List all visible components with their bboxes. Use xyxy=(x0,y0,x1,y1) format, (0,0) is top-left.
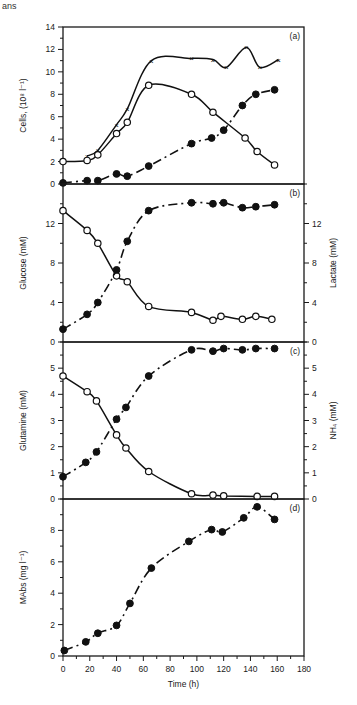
data-point-ammonium xyxy=(60,473,67,480)
data-point-total-cells: × xyxy=(276,56,281,65)
data-point-dead-cells xyxy=(94,177,101,184)
data-point-viable-cells xyxy=(210,109,216,115)
data-point-total-cells: × xyxy=(114,121,119,130)
data-point-lactate xyxy=(239,204,246,211)
data-point-dead-cells xyxy=(220,127,227,134)
data-point-viable-cells xyxy=(242,135,248,141)
multi-panel-figure: ans 02468101214Cells, (10⁸ l⁻¹)(a)××××××… xyxy=(0,0,357,705)
data-point-mabs xyxy=(219,529,226,536)
data-point-lactate xyxy=(145,207,152,214)
y-axis-title: MAbs (mg l⁻¹) xyxy=(18,551,28,605)
series-curve-mabs xyxy=(64,507,274,651)
data-point-glucose xyxy=(60,207,66,213)
data-point-glutamine xyxy=(220,493,226,499)
data-point-glutamine xyxy=(145,468,151,474)
y-right-tick-label: 0 xyxy=(312,337,317,347)
data-point-glutamine xyxy=(93,398,99,404)
data-point-total-cells: × xyxy=(125,105,130,114)
panel-tag: (a) xyxy=(290,31,301,41)
data-point-dead-cells xyxy=(84,177,91,184)
x-tick-label: 140 xyxy=(243,664,257,674)
y-axis-title: Cells, (10⁸ l⁻¹) xyxy=(18,78,28,133)
y-tick-label: 0 xyxy=(50,179,55,189)
y-tick-label: 14 xyxy=(46,22,56,32)
data-point-ammonium xyxy=(220,345,227,352)
panel-b: 0481204812Lactate (mM)Glucose (mM)(b) xyxy=(18,184,338,347)
y-tick-label: 12 xyxy=(46,44,56,54)
header-fragment: ans xyxy=(2,1,17,11)
panel-tag: (d) xyxy=(290,503,301,513)
y-right-tick-label: 5 xyxy=(312,363,317,373)
data-point-ammonium xyxy=(188,346,195,353)
x-tick-label: 0 xyxy=(61,664,66,674)
data-point-total-cells: × xyxy=(257,63,262,72)
data-point-lactate xyxy=(113,267,120,274)
data-point-glucose xyxy=(218,313,224,319)
data-point-total-cells: × xyxy=(149,57,154,66)
data-point-mabs xyxy=(208,526,215,533)
data-point-ammonium xyxy=(145,373,152,380)
y-right-tick-label: 12 xyxy=(312,219,322,229)
data-point-glutamine xyxy=(188,491,194,497)
series-curve-glutamine xyxy=(63,376,275,496)
data-point-lactate xyxy=(210,200,217,207)
y-tick-label: 5 xyxy=(50,363,55,373)
data-point-total-cells: × xyxy=(224,63,229,72)
x-tick-label: 120 xyxy=(217,664,231,674)
data-point-dead-cells xyxy=(188,140,195,147)
data-point-glutamine xyxy=(84,389,90,395)
x-tick-label: 100 xyxy=(190,664,204,674)
data-point-glutamine xyxy=(210,492,216,498)
data-point-ammonium xyxy=(113,416,120,423)
data-point-dead-cells xyxy=(239,102,246,109)
data-point-mabs xyxy=(94,630,101,637)
data-point-glucose xyxy=(84,227,90,233)
y-tick-label: 0 xyxy=(50,494,55,504)
data-point-glucose xyxy=(124,279,130,285)
y-tick-label: 4 xyxy=(50,298,55,308)
data-point-glutamine xyxy=(123,445,129,451)
y-right-tick-label: 4 xyxy=(312,298,317,308)
data-point-dead-cells xyxy=(124,173,131,180)
data-point-dead-cells xyxy=(145,163,152,170)
panel-a: 02468101214Cells, (10⁸ l⁻¹)(a)××××××××××… xyxy=(18,22,304,189)
data-point-mabs xyxy=(113,622,120,629)
data-point-mabs xyxy=(254,503,261,510)
x-tick-label: 60 xyxy=(139,664,149,674)
data-point-dead-cells xyxy=(271,86,278,93)
x-tick-label: 40 xyxy=(112,664,122,674)
data-point-ammonium xyxy=(93,449,100,456)
data-point-viable-cells xyxy=(60,158,66,164)
y-axis-title: Glutamine (mM) xyxy=(18,390,28,451)
y-tick-label: 4 xyxy=(50,134,55,144)
x-tick-label: 20 xyxy=(85,664,95,674)
data-point-mabs xyxy=(185,538,192,545)
data-point-glucose xyxy=(269,316,275,322)
data-point-mabs xyxy=(240,514,247,521)
data-point-viable-cells xyxy=(145,82,151,88)
data-point-lactate xyxy=(60,326,67,333)
series-curve-total-cells xyxy=(87,47,279,156)
panel-d: 02468MAbs (mg l⁻¹)(d)0204060801001201401… xyxy=(18,499,311,689)
data-point-glucose xyxy=(239,316,245,322)
data-point-viable-cells xyxy=(254,148,260,154)
y-tick-label: 0 xyxy=(50,651,55,661)
y-right-tick-label: 4 xyxy=(312,389,317,399)
data-point-ammonium xyxy=(210,348,217,355)
data-point-viable-cells xyxy=(113,130,119,136)
data-point-glucose xyxy=(210,317,216,323)
data-point-ammonium xyxy=(239,346,246,353)
panel-tag: (b) xyxy=(290,188,301,198)
data-point-viable-cells xyxy=(124,119,130,125)
y-tick-label: 4 xyxy=(50,588,55,598)
x-axis-title: Time (h) xyxy=(168,679,199,689)
data-point-ammonium xyxy=(123,404,130,411)
series-curve-ammonium xyxy=(63,348,275,476)
data-point-viable-cells xyxy=(95,152,101,158)
data-point-lactate xyxy=(188,199,195,206)
data-point-glucose xyxy=(95,240,101,246)
panel-c: 012345012345NH₄ (mM)Glutamine (mM)(c) xyxy=(18,342,338,504)
data-point-lactate xyxy=(220,199,227,206)
data-point-dead-cells xyxy=(208,135,215,142)
data-point-mabs xyxy=(271,516,278,523)
